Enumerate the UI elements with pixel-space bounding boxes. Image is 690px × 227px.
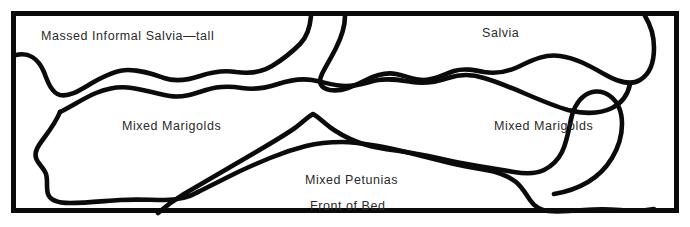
label-massed-informal-salvia-tall: Massed Informal Salvia—tall bbox=[41, 30, 214, 43]
label-salvia: Salvia bbox=[482, 27, 519, 40]
petunia-lower-boundary bbox=[198, 142, 654, 211]
salvia-front-boundary-left bbox=[16, 16, 311, 95]
label-mixed-marigolds-left: Mixed Marigolds bbox=[122, 120, 221, 133]
petunia-upper-boundary bbox=[158, 92, 622, 214]
label-front-of-bed: Front of Bed bbox=[310, 200, 385, 213]
marigold-salvia-boundary bbox=[60, 75, 630, 113]
garden-bed-diagram: Massed Informal Salvia—tall Salvia Mixed… bbox=[0, 0, 690, 227]
label-mixed-marigolds-right: Mixed Marigolds bbox=[494, 120, 593, 133]
label-mixed-petunias: Mixed Petunias bbox=[305, 174, 398, 187]
